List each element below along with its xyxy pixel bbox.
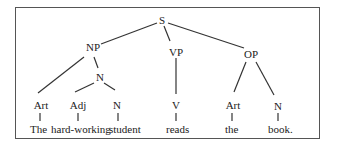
node-v: V <box>172 99 180 111</box>
word-the-1: The <box>30 123 47 135</box>
word-student: student <box>109 123 141 135</box>
node-n-2: N <box>274 100 282 112</box>
node-s: S <box>159 14 165 26</box>
node-n-1: N <box>113 99 121 111</box>
word-book: book. <box>268 123 293 135</box>
word-the-2: the <box>225 123 238 135</box>
node-np: NP <box>86 41 100 53</box>
node-adj: Adj <box>70 99 87 111</box>
word-reads: reads <box>166 123 189 135</box>
node-op: OP <box>244 48 258 60</box>
node-art-2: Art <box>226 99 241 111</box>
node-n-inner: N <box>96 71 104 83</box>
node-art-1: Art <box>34 99 49 111</box>
node-vp: VP <box>169 46 183 58</box>
word-hard-working: hard-working <box>51 123 111 135</box>
